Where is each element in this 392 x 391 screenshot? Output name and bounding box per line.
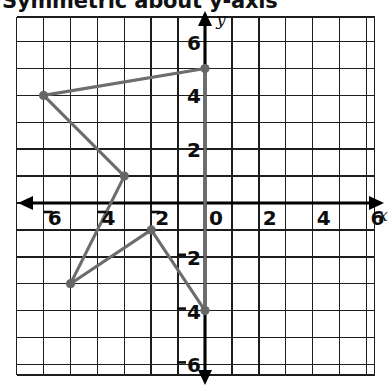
coordinate-plane: 6420246642246 xy <box>0 0 392 391</box>
y-tick-label: 2 <box>187 138 201 162</box>
x-tick-label: 2 <box>263 206 277 230</box>
x-tick-label: 0 <box>209 206 223 230</box>
y-axis-arrow-up <box>198 11 212 26</box>
y-tick-label: 4 <box>187 84 201 108</box>
vertex-point <box>66 279 75 288</box>
x-tick-label: 4 <box>317 206 331 230</box>
y-tick-label: 6 <box>187 353 201 377</box>
graph-page: Symmetric about y-axis 6420246642246 xy <box>0 0 392 391</box>
y-axis-name: y <box>215 9 226 29</box>
graph-svg: 6420246642246 xy <box>0 0 392 391</box>
y-tick-label: 6 <box>187 31 201 55</box>
x-tick-label: 2 <box>155 206 169 230</box>
vertex-point <box>120 172 129 181</box>
x-axis-arrow-left <box>18 196 33 210</box>
x-tick-label: 4 <box>101 206 115 230</box>
y-tick-label: 2 <box>187 246 201 270</box>
x-tick-label: 6 <box>48 206 62 230</box>
y-tick-label: 4 <box>187 300 201 324</box>
vertex-point <box>200 306 209 315</box>
vertex-point <box>39 91 48 100</box>
x-axis-name: x <box>378 205 388 225</box>
vertex-point <box>200 64 209 73</box>
